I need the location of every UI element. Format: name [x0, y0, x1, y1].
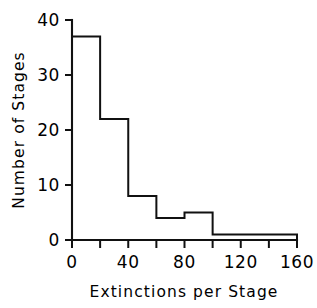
- histogram-figure: 010203040 04080120160 Extinctions per St…: [0, 0, 317, 308]
- x-tick-label-40: 40: [117, 252, 140, 272]
- x-tick-marks: [72, 240, 297, 248]
- x-tick-label-160: 160: [280, 252, 314, 272]
- bar-0-20: [72, 37, 100, 241]
- bar-60-80: [156, 218, 184, 240]
- y-tick-label-40: 40: [37, 10, 60, 30]
- y-tick-labels: 010203040: [37, 10, 60, 250]
- bar-20-40: [100, 119, 128, 240]
- x-axis-title: Extinctions per Stage: [90, 283, 279, 301]
- y-axis-title: Number of Stages: [10, 51, 28, 209]
- x-tick-label-120: 120: [224, 252, 258, 272]
- x-tick-label-80: 80: [173, 252, 196, 272]
- y-tick-label-20: 20: [37, 120, 60, 140]
- bar-40-60: [128, 196, 156, 240]
- x-tick-label-0: 0: [66, 252, 77, 272]
- y-tick-label-0: 0: [49, 230, 60, 250]
- histogram-canvas: 010203040 04080120160 Extinctions per St…: [0, 0, 317, 308]
- y-tick-label-30: 30: [37, 65, 60, 85]
- y-tick-label-10: 10: [37, 175, 60, 195]
- histogram-outline: [72, 37, 297, 241]
- x-tick-labels: 04080120160: [66, 252, 314, 272]
- axes-group: [72, 20, 297, 240]
- bars-group: [72, 37, 297, 241]
- bar-80-100: [185, 213, 213, 241]
